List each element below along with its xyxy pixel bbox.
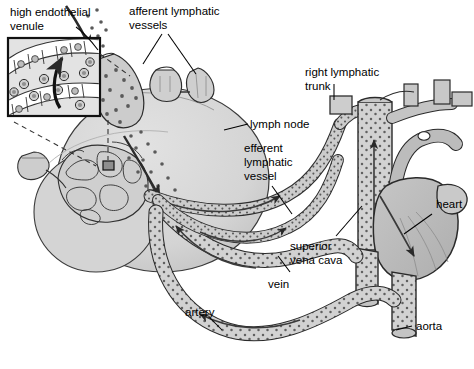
trunk-opening	[330, 96, 352, 114]
high-endothelial-venule-inset	[2, 38, 104, 118]
label-efferent-lymphatic-vessel-line1: efferent	[244, 142, 284, 154]
inset-location-marker	[103, 161, 114, 170]
label-superior-vena-cava-line1: superior	[290, 240, 332, 252]
label-aorta: aorta	[416, 320, 443, 332]
label-efferent-lymphatic-vessel-line2: lymphatic	[244, 156, 293, 168]
label-high-endothelial-venule-line1: high endothelial	[10, 6, 91, 18]
label-vein: vein	[268, 278, 289, 290]
lymphatic-circulation-diagram: high endothelial venule afferent lymphat…	[0, 0, 474, 369]
label-heart: heart	[436, 198, 463, 210]
label-lymph-node: lymph node	[250, 118, 309, 130]
label-afferent-lymphatic-vessels-line1: afferent lymphatic	[129, 5, 220, 17]
label-right-lymphatic-trunk-line1: right lymphatic	[305, 66, 379, 78]
label-artery: artery	[185, 306, 215, 318]
label-efferent-lymphatic-vessel-line3: vessel	[244, 170, 277, 182]
branch-vessel-stub-2	[434, 80, 450, 104]
label-afferent-lymphatic-vessels-line2: vessels	[129, 19, 168, 31]
branch-vessel-stub-1	[404, 84, 418, 106]
label-high-endothelial-venule-line2: venule	[10, 20, 44, 32]
label-superior-vena-cava-line2: vena cava	[290, 254, 343, 266]
branch-vessel-stub-3	[452, 92, 472, 106]
figure-canvas: high endothelial venule afferent lymphat…	[0, 0, 474, 369]
label-right-lymphatic-trunk-line2: trunk	[305, 80, 331, 92]
